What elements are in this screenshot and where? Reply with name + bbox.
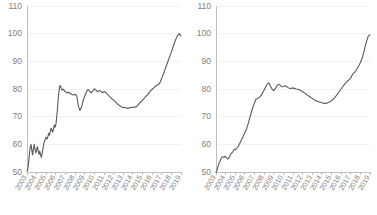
y-axis-tick-label: 100 xyxy=(8,28,22,38)
y-axis-tick-label: 70 xyxy=(201,111,211,121)
y-axis-tick-label: 80 xyxy=(201,84,211,94)
data-series-line xyxy=(27,34,181,172)
y-axis-tick-label: 70 xyxy=(13,111,23,121)
line-chart-right: 5060708090100110200320042005200620072008… xyxy=(189,0,377,215)
y-axis-tick-label: 100 xyxy=(196,28,210,38)
chart-panel-right: 5060708090100110200320042005200620072008… xyxy=(189,0,377,215)
y-axis-tick-label: 90 xyxy=(13,56,23,66)
y-axis-tick-label: 80 xyxy=(13,84,23,94)
y-axis-tick-label: 60 xyxy=(13,139,23,149)
y-axis-tick-label: 110 xyxy=(197,1,211,11)
y-axis-tick-label: 90 xyxy=(201,56,211,66)
y-axis-tick-label: 60 xyxy=(201,139,211,149)
data-series-line xyxy=(216,35,370,173)
line-chart-left: 5060708090100110200320042005200620072008… xyxy=(0,0,189,215)
dual-line-chart-figure: 5060708090100110200320042005200620072008… xyxy=(0,0,377,215)
chart-panel-left: 5060708090100110200320042005200620072008… xyxy=(0,0,189,215)
y-axis-tick-label: 110 xyxy=(8,1,22,11)
